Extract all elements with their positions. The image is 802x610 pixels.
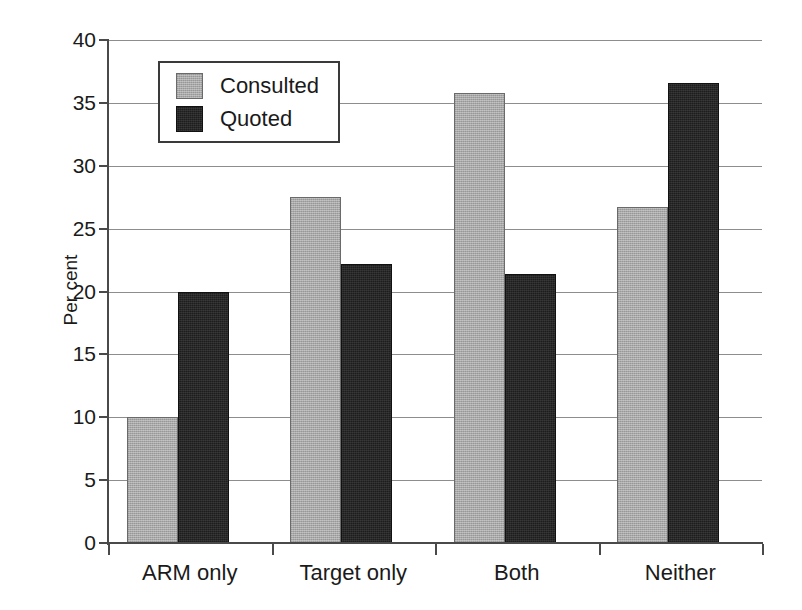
bar-consulted-both: [454, 93, 505, 543]
x-tick-label: Both: [435, 561, 599, 585]
legend-label-consulted: Consulted: [220, 74, 319, 98]
legend-label-quoted: Quoted: [220, 107, 292, 131]
y-tick-mark: [99, 228, 108, 230]
x-tick-mark: [599, 544, 601, 555]
bar-consulted-arm-only: [127, 417, 178, 543]
x-tick-label: Neither: [599, 561, 763, 585]
y-tick-mark: [99, 39, 108, 41]
legend-swatch-quoted: [176, 106, 203, 132]
x-tick-mark: [435, 544, 437, 555]
legend-item-consulted: Consulted: [176, 73, 319, 99]
x-tick-label: ARM only: [108, 561, 272, 585]
gridline: [108, 40, 762, 41]
x-tick-mark: [762, 544, 764, 555]
y-tick-label: 5: [36, 469, 96, 490]
y-axis-title: Per cent: [61, 210, 81, 370]
y-tick-label: 40: [36, 29, 96, 50]
bar-quoted-neither: [668, 83, 719, 543]
x-tick-label: Target only: [272, 561, 436, 585]
y-tick-mark: [99, 102, 108, 104]
y-tick-mark: [99, 291, 108, 293]
x-tick-mark: [272, 544, 274, 555]
legend-swatch-consulted: [176, 73, 203, 99]
y-tick-mark: [99, 479, 108, 481]
y-tick-label: 10: [36, 406, 96, 427]
y-tick-label: 35: [36, 92, 96, 113]
bar-quoted-arm-only: [178, 292, 229, 544]
bar-consulted-target-only: [290, 197, 341, 543]
y-tick-mark: [99, 165, 108, 167]
bar-chart: 0510152025303540 ARM onlyTarget onlyBoth…: [0, 0, 802, 610]
bar-quoted-target-only: [341, 264, 392, 543]
chart-legend: Consulted Quoted: [158, 61, 340, 143]
y-tick-mark: [99, 416, 108, 418]
bar-consulted-neither: [617, 207, 668, 543]
x-tick-mark: [108, 544, 110, 555]
legend-item-quoted: Quoted: [176, 106, 292, 132]
y-tick-mark: [99, 353, 108, 355]
y-tick-mark: [99, 542, 108, 544]
bar-quoted-both: [505, 274, 556, 543]
y-tick-label: 30: [36, 155, 96, 176]
y-tick-label: 0: [36, 532, 96, 553]
gridline: [108, 166, 762, 167]
